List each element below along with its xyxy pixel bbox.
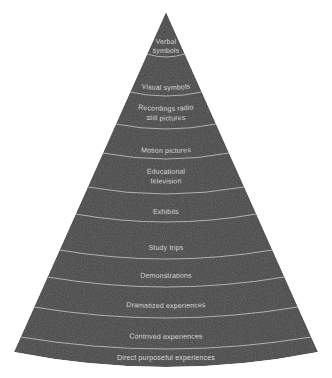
band-label-text-direct-purposeful-experiences-line0: Direct purposeful experiences — [117, 354, 215, 362]
cone-body-group — [14, 12, 318, 367]
band-label-verbal-symbols: Verbal — [155, 38, 176, 45]
band-label-direct-purposeful-experiences: Direct purposeful experiences — [117, 354, 215, 362]
band-label-verbal-symbols: symbols — [152, 47, 179, 55]
band-label-text-exhibits-line0: Exhibits — [153, 208, 179, 215]
cone-body-shape — [14, 12, 318, 367]
band-label-text-demonstrations-line0: Demonstrations — [140, 272, 192, 279]
band-label-demonstrations: Demonstrations — [140, 272, 192, 279]
band-label-educational-television: television — [150, 177, 181, 184]
band-label-text-verbal-symbols-line0: Verbal — [155, 38, 176, 45]
band-label-exhibits: Exhibits — [153, 208, 179, 215]
cone-of-experience-diagram: VerbalsymbolsVisual symbolsRecordings ra… — [0, 0, 332, 378]
band-label-text-educational-television-line1: television — [150, 177, 181, 184]
band-label-study-trips: Study trips — [148, 244, 183, 252]
band-label-text-verbal-symbols-line1: symbols — [152, 47, 179, 55]
band-label-educational-television: Educational — [147, 168, 186, 175]
band-label-text-study-trips-line0: Study trips — [148, 244, 183, 252]
band-label-text-educational-television-line0: Educational — [147, 168, 186, 175]
